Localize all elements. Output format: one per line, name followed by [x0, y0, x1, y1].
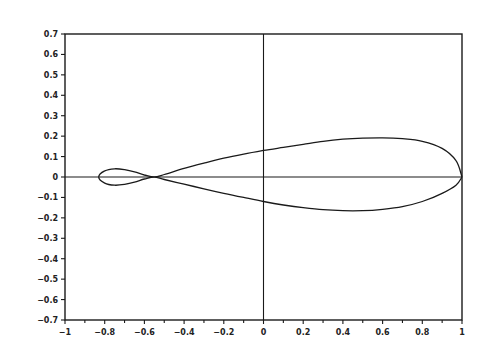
x-tick-label: −0.8 [94, 328, 115, 337]
data-curve [99, 138, 462, 211]
x-tick-label: −0.2 [213, 328, 234, 337]
x-tick-label: 0 [261, 328, 267, 337]
y-tick-label: 0.7 [44, 30, 58, 39]
x-tick-label: 0.2 [296, 328, 310, 337]
y-tick-label: −0.6 [37, 296, 58, 305]
y-tick-label: −0.4 [37, 255, 58, 264]
y-tick-label: −0.3 [37, 234, 58, 243]
axis-ticks [61, 34, 462, 324]
x-axis-tick-labels: −1−0.8−0.6−0.4−0.200.20.40.60.81 [59, 328, 465, 337]
x-tick-label: 1 [459, 328, 465, 337]
x-tick-label: −1 [59, 328, 72, 337]
y-tick-label: 0.2 [44, 132, 58, 141]
y-tick-label: 0.5 [44, 71, 59, 80]
y-tick-label: −0.2 [37, 214, 58, 223]
x-tick-label: 0.8 [415, 328, 430, 337]
x-tick-label: 0.4 [336, 328, 351, 337]
y-tick-label: −0.5 [37, 275, 58, 284]
y-axis-tick-labels: 0.70.60.50.40.30.20.10−0.1−0.2−0.3−0.4−0… [37, 30, 58, 325]
y-tick-label: −0.7 [37, 316, 58, 325]
y-tick-label: 0.3 [44, 112, 58, 121]
x-tick-label: 0.6 [376, 328, 391, 337]
y-tick-label: −0.1 [37, 193, 58, 202]
zero-reference-lines [65, 34, 462, 320]
y-tick-label: 0.4 [44, 91, 59, 100]
y-tick-label: 0.6 [44, 50, 59, 59]
y-tick-label: 0 [52, 173, 58, 182]
x-tick-label: −0.6 [134, 328, 155, 337]
chart-plot-area: 0.70.60.50.40.30.20.10−0.1−0.2−0.3−0.4−0… [0, 0, 483, 350]
x-tick-label: −0.4 [174, 328, 195, 337]
y-tick-label: 0.1 [44, 153, 59, 162]
